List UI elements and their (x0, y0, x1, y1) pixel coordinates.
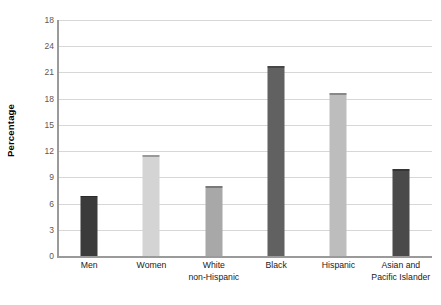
y-axis-tick-label: 18 (30, 94, 54, 104)
x-axis-tick-label: Black (245, 260, 307, 272)
bar-slot (120, 20, 182, 256)
y-axis-title: Percentage (0, 0, 22, 260)
x-axis-tick-label: Hispanic (307, 260, 369, 272)
y-axis-tick-label: 6 (30, 199, 54, 209)
bar (392, 169, 409, 256)
x-axis-tick-label: Asian andPacific Islander (370, 260, 432, 283)
plot-area (58, 20, 432, 256)
bar (330, 93, 347, 256)
bar-slot (58, 20, 120, 256)
y-axis-tick-label: 24 (30, 41, 54, 51)
bar-slot (307, 20, 369, 256)
y-axis-tick-label: 18 (30, 15, 54, 25)
x-axis-tick-label-line1: Hispanic (322, 260, 355, 270)
y-axis-tick-label: 12 (30, 146, 54, 156)
x-axis-tick-label: Men (58, 260, 120, 272)
x-axis-tick-label-line1: White (203, 260, 225, 270)
x-axis-line (57, 256, 432, 258)
bar-slot (245, 20, 307, 256)
y-axis-tick-label: 9 (30, 172, 54, 182)
bar (268, 66, 285, 256)
bar (143, 155, 160, 256)
x-axis-tick-label: Women (120, 260, 182, 272)
x-axis-tick-label-line1: Asian and (382, 260, 421, 270)
y-axis-tick-label: 3 (30, 225, 54, 235)
y-axis-tick-label: 0 (30, 251, 54, 261)
y-axis-tick-label: 15 (30, 120, 54, 130)
x-axis-tick-label-line1: Men (81, 260, 98, 270)
bar (205, 186, 222, 256)
y-axis-tick-labels: 0369121518212418 (26, 20, 54, 257)
y-axis-tick-label: 21 (30, 67, 54, 77)
bar (81, 196, 98, 256)
bar-slot (183, 20, 245, 256)
bar-slot (370, 20, 432, 256)
x-axis-tick-label-line1: Black (266, 260, 287, 270)
x-axis-tick-label-line2: Pacific Islander (370, 272, 432, 284)
x-axis-tick-label-line1: Women (137, 260, 167, 270)
x-axis-tick-labels: MenWomenWhitenon-HispanicBlackHispanicAs… (58, 260, 432, 304)
y-axis-title-text: Percentage (6, 103, 17, 156)
y-axis-line (57, 20, 59, 257)
x-axis-tick-label: Whitenon-Hispanic (183, 260, 245, 283)
x-axis-tick-label-line2: non-Hispanic (183, 272, 245, 284)
bar-chart-figure: Percentage 0369121518212418 MenWomenWhit… (0, 0, 441, 305)
